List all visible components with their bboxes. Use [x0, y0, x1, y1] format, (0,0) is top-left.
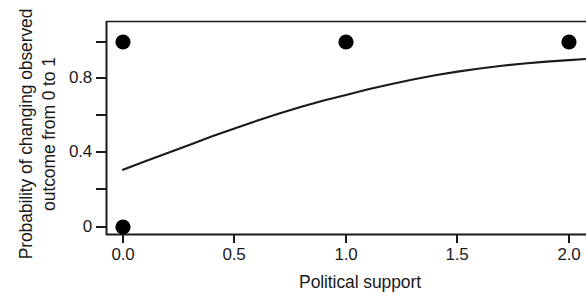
axis-spines: [106, 21, 586, 235]
data-point: [561, 34, 576, 49]
chart-figure: Probability of changing observed outcome…: [0, 0, 586, 301]
plot-area: [0, 0, 586, 301]
fitted-probability-curve: [123, 58, 586, 169]
data-point: [115, 219, 130, 234]
data-point: [115, 34, 130, 49]
data-point: [338, 34, 353, 49]
x-axis-ticks: [123, 235, 569, 243]
y-axis-ticks: [96, 42, 106, 227]
